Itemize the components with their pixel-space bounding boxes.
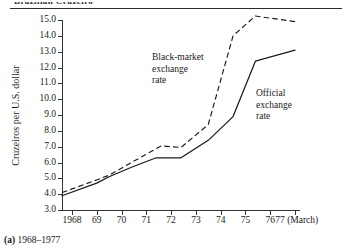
annotation-official-line-1: Official (256, 88, 292, 100)
figure-root: Brazilian Cruzeiro Cruzeiros per U.S. do… (0, 0, 349, 251)
x-tick-label: 69 (92, 216, 102, 226)
annotation-official: Official exchange rate (256, 88, 292, 123)
y-tick-label: 5.0 (44, 174, 56, 184)
y-tick-label: 14.0 (39, 31, 56, 41)
y-tick-label: 4.0 (44, 189, 56, 199)
y-tick-label: 3.0 (44, 205, 56, 215)
y-tick-label: 10.0 (39, 94, 56, 104)
x-tick-label: 1968 (62, 216, 81, 226)
x-tick-label: 74 (216, 216, 226, 226)
y-axis-title-text: Cruzeiros per U.S. dollar (10, 65, 21, 165)
header-rule (10, 8, 342, 9)
annotation-official-line-3: rate (256, 111, 292, 123)
y-axis-title: Cruzeiros per U.S. dollar (8, 20, 22, 210)
annotation-black-market-line-3: rate (152, 75, 204, 87)
annotation-black-market-line-1: Black-market (152, 52, 204, 64)
x-tick-label: 73 (191, 216, 201, 226)
y-tick (58, 210, 62, 211)
running-head: Brazilian Cruzeiro (14, 0, 93, 6)
y-tick-label: 15.0 (39, 15, 56, 25)
figure-caption: (a) 1968–1977 (4, 235, 60, 245)
y-tick-label: 12.0 (39, 63, 56, 73)
x-tick-label: 75 (241, 216, 251, 226)
x-tick-label: 77 (March) (275, 216, 318, 226)
caption-text: 1968–1977 (17, 235, 60, 245)
y-tick-label: 13.0 (39, 47, 56, 57)
y-tick-label: 7.0 (44, 142, 56, 152)
y-tick-label: 9.0 (44, 110, 56, 120)
annotation-official-line-2: exchange (256, 100, 292, 112)
y-tick-label: 6.0 (44, 158, 56, 168)
x-tick-label: 76 (266, 216, 276, 226)
annotation-black-market: Black-market exchange rate (152, 52, 204, 87)
annotation-black-market-line-2: exchange (152, 64, 204, 76)
y-tick-label: 8.0 (44, 126, 56, 136)
y-tick-label: 11.0 (40, 79, 56, 89)
x-tick-label: 71 (142, 216, 152, 226)
x-tick-label: 70 (117, 216, 127, 226)
x-tick-label: 72 (166, 216, 176, 226)
caption-marker: (a) (4, 235, 15, 245)
